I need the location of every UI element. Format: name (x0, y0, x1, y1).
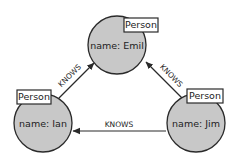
node-jim: name: Jim Person (167, 89, 225, 152)
edge-label-jim-ian: KNOWS (105, 120, 134, 129)
edge-ian-knows-emil: KNOWS (56, 62, 94, 98)
node-property-jim: name: Jim (172, 118, 220, 129)
node-label-ian: Person (18, 91, 50, 102)
edge-jim-knows-emil: KNOWS (146, 62, 185, 98)
edge-label-jim-emil: KNOWS (158, 62, 185, 89)
node-ian: name: Ian Person (14, 90, 72, 152)
edge-jim-knows-ian: KNOWS (73, 120, 166, 131)
node-label-emil: Person (125, 19, 157, 30)
node-label-jim: Person (189, 90, 221, 101)
node-property-emil: name: Emil (90, 40, 144, 51)
node-property-ian: name: Ian (19, 118, 67, 129)
edge-label-ian-emil: KNOWS (56, 62, 83, 89)
node-emil: name: Emil Person (88, 16, 158, 74)
graph-diagram: KNOWS KNOWS KNOWS name: Emil Person name… (0, 0, 236, 168)
